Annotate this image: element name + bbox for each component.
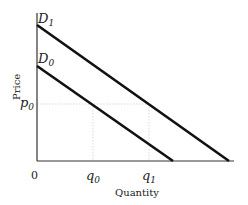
d1-label: D1 (37, 11, 54, 28)
x-axis-title: Quantity (115, 187, 159, 198)
p0-label: p0 (20, 95, 34, 112)
d0-label: D0 (37, 51, 54, 68)
demand-curve-d1 (37, 25, 229, 161)
y-axis-title: Price (11, 74, 22, 100)
demand-shift-chart: D1 D0 p0 0 q0 q1 Quantity Price (0, 0, 248, 205)
origin-label: 0 (31, 169, 38, 182)
q0-label: q0 (86, 168, 100, 185)
demand-curve-d0 (37, 66, 173, 161)
q1-label: q1 (142, 168, 156, 185)
